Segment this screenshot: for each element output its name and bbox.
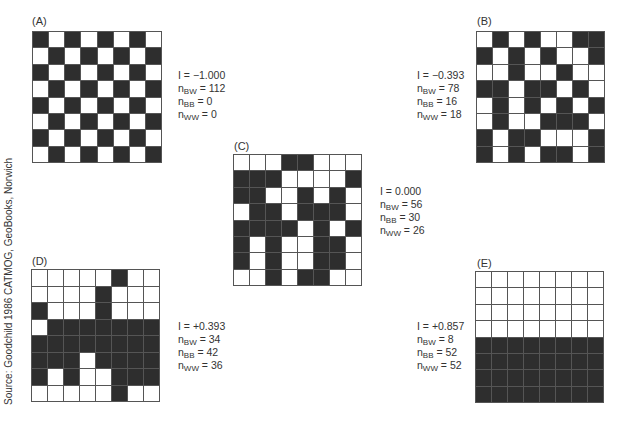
panel-label-c: (C) bbox=[234, 140, 249, 152]
white-cell bbox=[130, 114, 145, 129]
white-cell bbox=[509, 98, 524, 113]
white-cell bbox=[524, 272, 539, 287]
black-cell bbox=[33, 130, 48, 145]
black-cell bbox=[540, 387, 555, 402]
white-cell bbox=[266, 155, 281, 170]
white-cell bbox=[114, 130, 129, 145]
white-cell bbox=[282, 171, 297, 186]
black-cell bbox=[81, 48, 96, 63]
black-cell bbox=[234, 171, 249, 186]
black-cell bbox=[130, 130, 145, 145]
white-cell bbox=[146, 98, 161, 113]
white-cell bbox=[49, 130, 64, 145]
black-cell bbox=[128, 353, 143, 369]
white-cell bbox=[114, 32, 129, 47]
black-cell bbox=[64, 369, 79, 385]
white-cell bbox=[80, 303, 95, 319]
white-cell bbox=[477, 65, 492, 80]
black-cell bbox=[589, 130, 604, 145]
white-cell bbox=[81, 98, 96, 113]
white-cell bbox=[525, 147, 540, 162]
black-cell bbox=[33, 32, 48, 47]
white-cell bbox=[80, 270, 95, 286]
white-cell bbox=[250, 253, 265, 268]
black-cell bbox=[32, 369, 47, 385]
black-cell bbox=[557, 65, 572, 80]
black-cell bbox=[64, 353, 79, 369]
black-cell bbox=[266, 171, 281, 186]
black-cell bbox=[524, 338, 539, 353]
white-cell bbox=[476, 272, 491, 287]
white-cell bbox=[509, 114, 524, 129]
white-cell bbox=[144, 303, 159, 319]
white-cell bbox=[524, 305, 539, 320]
n-bb: nBB = 0 bbox=[178, 95, 225, 108]
black-cell bbox=[96, 303, 111, 319]
white-cell bbox=[346, 253, 361, 268]
white-cell bbox=[557, 130, 572, 145]
white-cell bbox=[476, 288, 491, 303]
panel-label-a: (A) bbox=[32, 15, 47, 27]
white-cell bbox=[98, 147, 113, 162]
white-cell bbox=[250, 155, 265, 170]
white-cell bbox=[493, 130, 508, 145]
morans-i: I = −1.000 bbox=[178, 69, 225, 82]
white-cell bbox=[493, 147, 508, 162]
black-cell bbox=[234, 221, 249, 236]
black-cell bbox=[588, 370, 603, 385]
white-cell bbox=[98, 81, 113, 96]
stats-d: I = +0.393nBW = 34nBB = 42nWW = 36 bbox=[178, 320, 225, 372]
white-cell bbox=[573, 48, 588, 63]
black-cell bbox=[49, 48, 64, 63]
morans-i: I = +0.857 bbox=[417, 320, 464, 333]
black-cell bbox=[98, 130, 113, 145]
black-cell bbox=[32, 336, 47, 352]
white-cell bbox=[282, 204, 297, 219]
white-cell bbox=[282, 188, 297, 203]
black-cell bbox=[525, 32, 540, 47]
white-cell bbox=[346, 155, 361, 170]
white-cell bbox=[48, 386, 63, 402]
black-cell bbox=[128, 336, 143, 352]
white-cell bbox=[144, 270, 159, 286]
white-cell bbox=[492, 272, 507, 287]
white-cell bbox=[588, 305, 603, 320]
black-cell bbox=[234, 188, 249, 203]
black-cell bbox=[146, 48, 161, 63]
n-ww: nWW = 26 bbox=[380, 224, 425, 237]
white-cell bbox=[80, 369, 95, 385]
n-bw: nBW = 56 bbox=[380, 198, 425, 211]
black-cell bbox=[49, 147, 64, 162]
white-cell bbox=[508, 288, 523, 303]
white-cell bbox=[573, 130, 588, 145]
black-cell bbox=[556, 387, 571, 402]
black-cell bbox=[508, 354, 523, 369]
black-cell bbox=[114, 48, 129, 63]
white-cell bbox=[144, 287, 159, 303]
black-cell bbox=[330, 204, 345, 219]
white-cell bbox=[32, 287, 47, 303]
lattice-grid-d bbox=[31, 269, 160, 402]
white-cell bbox=[477, 98, 492, 113]
white-cell bbox=[130, 48, 145, 63]
white-cell bbox=[96, 386, 111, 402]
n-bw: nBW = 34 bbox=[178, 333, 225, 346]
black-cell bbox=[65, 65, 80, 80]
white-cell bbox=[250, 270, 265, 285]
white-cell bbox=[282, 237, 297, 252]
black-cell bbox=[314, 270, 329, 285]
white-cell bbox=[572, 272, 587, 287]
black-cell bbox=[477, 147, 492, 162]
white-cell bbox=[65, 81, 80, 96]
black-cell bbox=[128, 369, 143, 385]
black-cell bbox=[573, 32, 588, 47]
white-cell bbox=[541, 98, 556, 113]
black-cell bbox=[48, 353, 63, 369]
white-cell bbox=[540, 305, 555, 320]
lattice-grid-c bbox=[233, 154, 362, 286]
black-cell bbox=[144, 353, 159, 369]
white-cell bbox=[298, 171, 313, 186]
black-cell bbox=[525, 130, 540, 145]
white-cell bbox=[557, 81, 572, 96]
white-cell bbox=[96, 270, 111, 286]
